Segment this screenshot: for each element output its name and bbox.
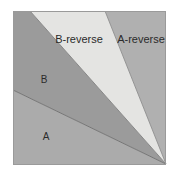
label-a: A — [43, 131, 50, 142]
diagram-figure: B-reverse A-reverse B A — [0, 0, 180, 177]
label-b-reverse: B-reverse — [55, 33, 103, 45]
label-a-reverse: A-reverse — [117, 33, 165, 45]
partition-diagram — [0, 0, 180, 177]
label-b: B — [41, 74, 48, 85]
